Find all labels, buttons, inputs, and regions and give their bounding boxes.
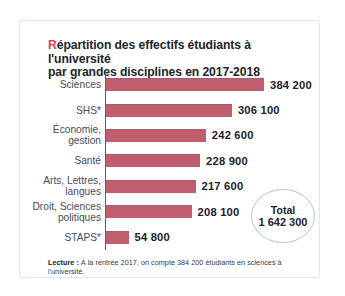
category-label: STAPS* [20,232,105,243]
category-label: Santé [20,155,105,166]
bar [106,205,192,218]
category-label: SHS* [20,105,105,116]
chart-row: SHS*306 100 [20,97,319,122]
bar [106,78,264,91]
value-label: 242 600 [212,129,254,141]
title-line1: épartition des effectifs étudiants à l'u… [48,38,251,66]
reading-note: Lecture : À la rentrée 2017, on compte 3… [48,258,312,276]
value-label: 217 600 [202,180,244,192]
bar [106,180,196,193]
reading-note-label: Lecture : [48,258,79,267]
bar [106,104,232,117]
reading-note-text: À la rentrée 2017, on compte 384 200 étu… [48,258,282,276]
category-label: Arts, Lettres, langues [20,175,105,197]
value-label: 228 900 [206,155,248,167]
bar [106,129,206,142]
category-label: Droit, Sciences politiques [20,201,105,223]
total-badge-label: Total [271,204,295,216]
category-label: Sciences [20,79,105,90]
total-badge-value: 1 642 300 [259,216,308,229]
value-label: 208 100 [198,206,240,218]
value-label: 306 100 [238,104,280,116]
chart-row: Économie, gestion242 600 [20,123,319,148]
infographic: Répartition des effectifs étudiants à l'… [0,0,345,296]
chart-row: Santé228 900 [20,148,319,173]
value-label: 54 800 [135,231,170,243]
total-badge: Total 1 642 300 [251,189,315,243]
chart-card: Répartition des effectifs étudiants à l'… [19,20,320,278]
bar [106,231,129,244]
title-accent-letter: R [48,38,57,52]
value-label: 384 200 [270,79,312,91]
bar [106,154,200,167]
chart-row: Sciences384 200 [20,72,319,97]
category-label: Économie, gestion [20,124,105,146]
